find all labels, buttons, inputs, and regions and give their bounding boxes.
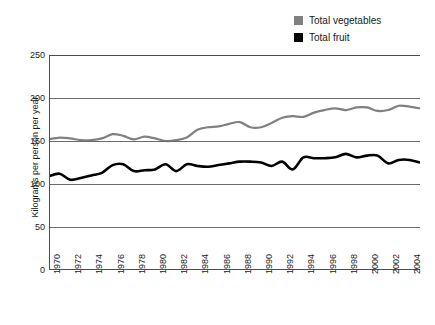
x-tick-label: 1986 (222, 272, 232, 274)
legend-swatch-icon (294, 16, 303, 25)
x-tick-label: 1998 (349, 272, 359, 274)
x-tick-label: 1976 (116, 272, 126, 274)
chart-page: Total vegetables Total fruit Kilograms p… (0, 0, 435, 325)
y-tick-label: 150 (11, 137, 45, 146)
x-tick: 1990 (257, 272, 266, 282)
legend-entry-total-fruit: Total fruit (294, 31, 381, 43)
x-tick: 1980 (151, 272, 160, 282)
x-tick: 1992 (278, 272, 287, 282)
x-tick-label: 2000 (370, 272, 380, 274)
x-tick: 2000 (363, 272, 372, 282)
x-tick-label: 1994 (306, 272, 316, 274)
y-tick-label: 250 (11, 51, 45, 60)
plot-area (49, 55, 420, 270)
y-tick-label: 100 (11, 180, 45, 189)
y-axis-tick-labels: 050100150200250 (9, 55, 45, 270)
x-tick: 1984 (193, 272, 202, 282)
y-tick-label: 200 (11, 94, 45, 103)
x-tick-label: 2002 (391, 272, 401, 274)
x-tick-label: 1974 (94, 272, 104, 274)
legend-label: Total vegetables (309, 15, 381, 26)
x-tick-label: 1984 (200, 272, 210, 274)
x-tick-label: 2004 (412, 272, 422, 274)
x-tick-label: 1970 (52, 272, 62, 274)
x-tick: 1994 (299, 272, 308, 282)
x-tick: 1978 (130, 272, 139, 282)
x-tick-label: 1982 (179, 272, 189, 274)
legend-entry-total-vegetables: Total vegetables (294, 14, 381, 26)
plot-frame (49, 55, 420, 270)
x-tick: 1974 (87, 272, 96, 282)
x-tick: 1976 (109, 272, 118, 282)
x-tick: 2002 (384, 272, 393, 282)
legend-swatch-icon (294, 33, 303, 42)
x-tick-label: 1978 (137, 272, 147, 274)
x-tick-label: 1996 (328, 272, 338, 274)
x-tick: 1986 (215, 272, 224, 282)
chart-legend: Total vegetables Total fruit (294, 14, 381, 43)
x-tick-label: 1992 (285, 272, 295, 274)
x-axis-tick-labels: 1970197219741976197819801982198419861988… (49, 272, 420, 322)
x-tick: 1996 (321, 272, 330, 282)
legend-label: Total fruit (309, 32, 350, 43)
x-tick-label: 1988 (243, 272, 253, 274)
x-tick: 1970 (45, 272, 54, 282)
x-tick: 1972 (66, 272, 75, 282)
x-tick-label: 1972 (73, 272, 83, 274)
x-tick-label: 1980 (158, 272, 168, 274)
x-tick: 1988 (236, 272, 245, 282)
y-tick-label: 0 (11, 266, 45, 275)
x-tick: 2004 (405, 272, 414, 282)
x-tick-label: 1990 (264, 272, 274, 274)
x-tick: 1982 (172, 272, 181, 282)
y-tick-label: 50 (11, 223, 45, 232)
x-tick: 1998 (342, 272, 351, 282)
